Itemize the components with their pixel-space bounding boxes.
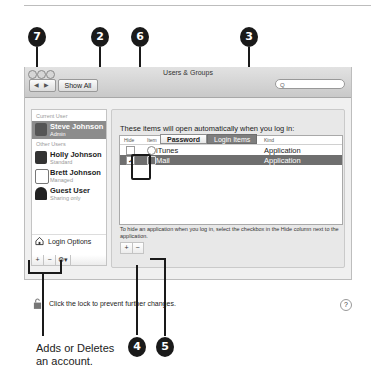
avatar	[35, 123, 47, 136]
users-sidebar: Current User Steve Johnson Admin Other U…	[31, 109, 107, 256]
lock-icon[interactable]	[33, 298, 42, 309]
caption-line	[42, 272, 44, 336]
tab-password[interactable]: Password	[160, 134, 207, 144]
callout-3: 3	[240, 27, 258, 47]
login-items-table: Hide Item Kind iTunes Application ✓ Mail…	[119, 135, 343, 225]
login-options-item[interactable]: Login Options	[32, 234, 106, 248]
item-name: Mail	[156, 156, 170, 165]
avatar	[35, 169, 49, 184]
item-name: iTunes	[156, 146, 178, 155]
search-field[interactable]: Q	[275, 79, 345, 89]
user-name: Holly Johnson	[50, 150, 102, 159]
user-name: Steve Johnson	[50, 122, 103, 131]
users-groups-window: Users & Groups ◀ ▶ Show All Q Current Us…	[24, 67, 352, 280]
sidebar-user-steve[interactable]: Steve Johnson Admin	[32, 121, 106, 139]
sidebar-user-holly[interactable]: Holly Johnson Standard	[32, 149, 106, 167]
user-role: Standard	[50, 159, 72, 165]
avatar	[35, 187, 47, 200]
avatar	[35, 151, 47, 164]
user-role: Sharing only	[50, 195, 81, 201]
table-row[interactable]: ✓ Mail Application	[120, 155, 342, 165]
show-all-button[interactable]: Show All	[58, 79, 98, 92]
login-item-actions-bar: + −	[120, 242, 144, 254]
login-options-label: Login Options	[48, 238, 91, 245]
remove-login-item-button[interactable]: −	[132, 243, 143, 253]
column-item[interactable]: Item	[147, 137, 157, 143]
tab-bar: Password Login Items	[160, 134, 257, 144]
column-hide[interactable]: Hide	[124, 137, 134, 143]
callout-6-highlight	[131, 154, 151, 180]
item-kind: Application	[264, 146, 301, 155]
account-buttons-bracket	[28, 260, 62, 274]
table-row[interactable]: iTunes Application	[120, 145, 342, 155]
sidebar-user-guest[interactable]: Guest User Sharing only	[32, 185, 106, 203]
sidebar-user-brett[interactable]: Brett Johnson Managed	[32, 167, 106, 185]
title-bar: Users & Groups ◀ ▶ Show All Q	[25, 67, 351, 98]
caption-line-2: an account.	[36, 355, 114, 368]
item-kind: Application	[264, 156, 301, 165]
user-role: Admin	[50, 131, 66, 137]
callout-5: 5	[156, 337, 174, 357]
lock-message: Click the lock to prevent further change…	[49, 300, 176, 307]
current-user-header: Current User	[36, 113, 67, 119]
column-kind[interactable]: Kind	[264, 137, 274, 143]
callout-5-line	[164, 258, 166, 336]
callout-6: 6	[131, 27, 149, 47]
user-name: Brett Johnson	[50, 168, 101, 177]
callout-4-line	[136, 265, 138, 335]
house-icon	[35, 236, 44, 246]
callout-2: 2	[91, 27, 109, 47]
page-top-rule	[24, 5, 371, 6]
back-forward-buttons[interactable]: ◀ ▶	[29, 79, 56, 92]
user-name: Guest User	[50, 186, 90, 195]
help-button[interactable]: ?	[340, 299, 352, 311]
login-items-panel: These items will open automatically when…	[111, 109, 345, 268]
other-users-header: Other Users	[36, 141, 66, 147]
callout-7-line	[36, 47, 38, 69]
hide-hint-text: To hide an application when you log in, …	[120, 226, 342, 240]
account-caption: Adds or Deletes an account.	[36, 342, 114, 368]
tab-login-items[interactable]: Login Items	[207, 134, 257, 144]
window-title: Users & Groups	[25, 69, 351, 76]
callout-7: 7	[28, 27, 46, 47]
user-role: Managed	[50, 177, 73, 183]
login-items-intro: These items will open automatically when…	[120, 124, 294, 133]
caption-line-1: Adds or Deletes	[36, 342, 114, 355]
callout-4: 4	[128, 337, 146, 357]
